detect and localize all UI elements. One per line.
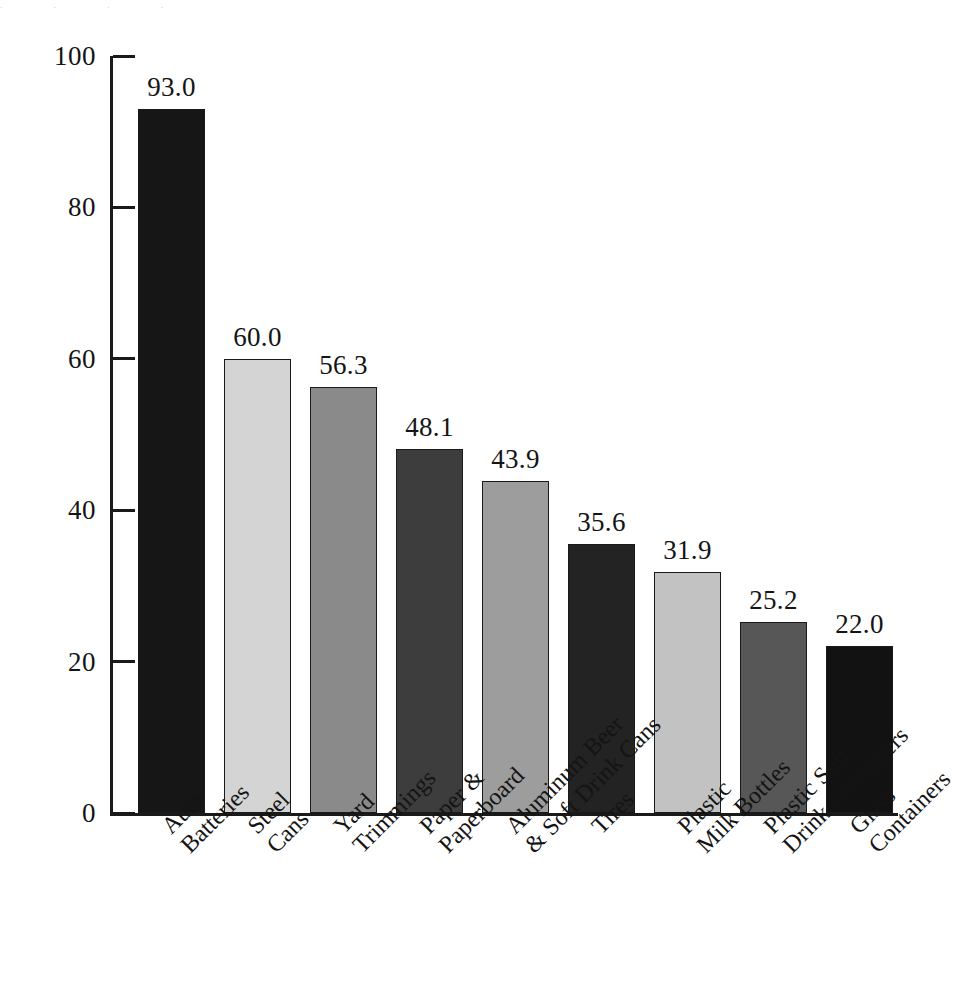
bar-group[interactable]: 56.3 (310, 56, 377, 813)
bar[interactable] (654, 572, 721, 813)
bar-value-label: 22.0 (835, 611, 883, 638)
bar[interactable] (138, 109, 205, 813)
bar-value-label: 35.6 (577, 509, 625, 536)
y-tick-mark (113, 509, 135, 512)
bar-group[interactable]: 22.0 (826, 56, 893, 813)
bar-value-label: 93.0 (147, 74, 195, 101)
y-tick-label: 100 (54, 43, 96, 70)
y-tick-label: 80 (68, 194, 96, 221)
bar-chart-figure: 020406080100 93.060.056.348.143.935.631.… (40, 16, 898, 988)
plot-area: 020406080100 93.060.056.348.143.935.631.… (110, 56, 898, 813)
bar-value-label: 48.1 (405, 414, 453, 441)
bar-value-label: 56.3 (319, 352, 367, 379)
bar-group[interactable]: 93.0 (138, 56, 205, 813)
y-tick-label: 60 (68, 345, 96, 372)
scan-artifact-top-edge: . . . . (0, 0, 858, 8)
bar-value-label: 43.9 (491, 446, 539, 473)
y-tick-mark (113, 206, 135, 209)
bar-group[interactable]: 25.2 (740, 56, 807, 813)
y-axis-line (110, 56, 113, 813)
bar[interactable] (224, 359, 291, 813)
y-tick-mark (113, 55, 135, 58)
bar-group[interactable]: 48.1 (396, 56, 463, 813)
y-tick-label: 20 (68, 648, 96, 675)
y-tick-label: 0 (82, 800, 96, 827)
bar[interactable] (310, 387, 377, 813)
bar-value-label: 25.2 (749, 587, 797, 614)
y-tick-label: 40 (68, 497, 96, 524)
y-tick-mark (113, 357, 135, 360)
bar-value-label: 60.0 (233, 324, 281, 351)
y-tick-mark (113, 812, 135, 815)
y-tick-mark (113, 660, 135, 663)
bar-group[interactable]: 43.9 (482, 56, 549, 813)
bar-group[interactable]: 60.0 (224, 56, 291, 813)
bar-value-label: 31.9 (663, 537, 711, 564)
bar-group[interactable]: 31.9 (654, 56, 721, 813)
